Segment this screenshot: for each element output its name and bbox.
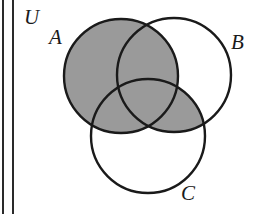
set-c-label: C <box>181 183 195 204</box>
universe-label: U <box>24 7 39 28</box>
shaded-region <box>64 19 205 193</box>
set-a-label: A <box>49 27 62 48</box>
set-b-label: B <box>231 32 244 53</box>
